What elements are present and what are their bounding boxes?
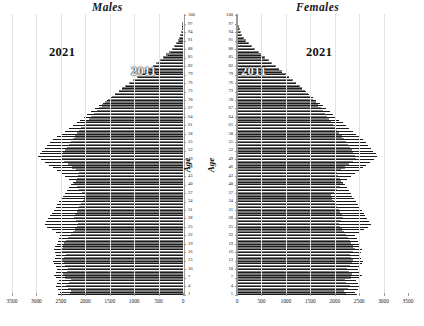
age-row	[237, 39, 408, 42]
line-2011	[57, 204, 183, 205]
age-row	[12, 197, 183, 200]
age-tick-mark	[235, 252, 237, 253]
age-row	[237, 203, 408, 206]
age-row	[12, 259, 183, 262]
age-row	[237, 118, 408, 121]
line-2011	[58, 289, 183, 290]
age-tick-mark	[235, 218, 237, 219]
line-2011	[237, 218, 367, 219]
line-2011	[63, 196, 183, 197]
line-2011	[237, 201, 356, 202]
line-2011	[45, 148, 183, 149]
age-row	[12, 231, 183, 234]
age-row	[237, 20, 408, 23]
line-2011	[237, 258, 361, 259]
age-tick-label: 58	[188, 132, 193, 137]
age-tick-mark	[235, 92, 237, 93]
age-row	[12, 110, 183, 113]
line-2011	[56, 232, 183, 233]
age-tick-mark	[184, 142, 186, 143]
age-row	[12, 59, 183, 62]
age-tick-mark	[184, 108, 186, 109]
age-tick-label: 67	[228, 106, 233, 111]
gridline	[85, 14, 86, 296]
age-row	[12, 217, 183, 220]
age-tick-mark	[235, 235, 237, 236]
line-2011	[47, 145, 183, 146]
line-2011	[237, 289, 358, 290]
age-row	[12, 42, 183, 45]
age-row	[237, 189, 408, 192]
age-row	[12, 79, 183, 82]
age-tick-mark	[184, 235, 186, 236]
age-row	[12, 240, 183, 243]
age-row	[12, 220, 183, 223]
value-tick-mark	[286, 293, 287, 296]
line-2011	[237, 88, 302, 89]
age-row	[237, 271, 408, 274]
age-row	[12, 121, 183, 124]
age-tick-mark	[235, 24, 237, 25]
age-tick-mark	[184, 261, 186, 262]
age-row	[12, 214, 183, 217]
line-2011	[237, 134, 356, 135]
age-tick-mark	[184, 286, 186, 287]
age-tick-mark	[184, 49, 186, 50]
gridline	[36, 14, 37, 296]
line-2011	[53, 261, 183, 262]
age-row	[12, 192, 183, 195]
age-tick-mark	[184, 41, 186, 42]
line-2011	[237, 125, 346, 126]
line-2011	[58, 241, 183, 242]
age-tick-mark	[184, 24, 186, 25]
age-tick-mark	[235, 49, 237, 50]
line-2011	[57, 283, 183, 284]
line-2011	[119, 91, 183, 92]
age-tick-mark	[184, 125, 186, 126]
line-2011	[237, 151, 373, 152]
age-tick-label: 46	[228, 165, 233, 170]
line-2011	[237, 255, 359, 256]
age-tick-mark	[235, 193, 237, 194]
age-row	[237, 197, 408, 200]
age-tick-mark	[235, 142, 237, 143]
line-2011	[175, 46, 183, 47]
line-2011	[57, 269, 183, 270]
age-row	[12, 73, 183, 76]
age-tick-label: 70	[188, 98, 193, 103]
line-2011	[237, 97, 313, 98]
age-row	[12, 28, 183, 31]
line-2011	[237, 80, 292, 81]
age-tick-label: 4	[188, 284, 190, 289]
value-tick-label: 1500	[305, 298, 316, 304]
age-row	[12, 37, 183, 40]
age-tick-mark	[184, 75, 186, 76]
age-tick-label: 88	[188, 47, 193, 52]
age-tick-mark	[235, 244, 237, 245]
line-2011	[237, 187, 347, 188]
age-row	[237, 282, 408, 285]
line-2011	[237, 136, 360, 137]
age-tick-label: 22	[228, 233, 233, 238]
line-2011	[46, 221, 183, 222]
age-tick-label: 61	[228, 123, 233, 128]
value-tick-label: 1000	[129, 298, 140, 304]
value-tick-mark	[36, 293, 37, 296]
value-tick-mark	[110, 293, 111, 296]
value-tick-mark	[61, 293, 62, 296]
value-tick-label: 2500	[55, 298, 66, 304]
line-2011	[73, 182, 183, 183]
gridline	[286, 14, 287, 296]
age-tick-label: 79	[228, 72, 233, 77]
age-tick-label: 40	[228, 182, 233, 187]
line-2011	[60, 292, 183, 293]
age-row	[12, 99, 183, 102]
age-tick-mark	[184, 151, 186, 152]
age-tick-label: 91	[188, 38, 193, 43]
age-row	[237, 82, 408, 85]
age-tick-label: 100	[188, 13, 195, 18]
line-2011	[95, 108, 183, 109]
age-row	[12, 290, 183, 293]
age-row	[237, 127, 408, 130]
age-tick-mark	[235, 176, 237, 177]
